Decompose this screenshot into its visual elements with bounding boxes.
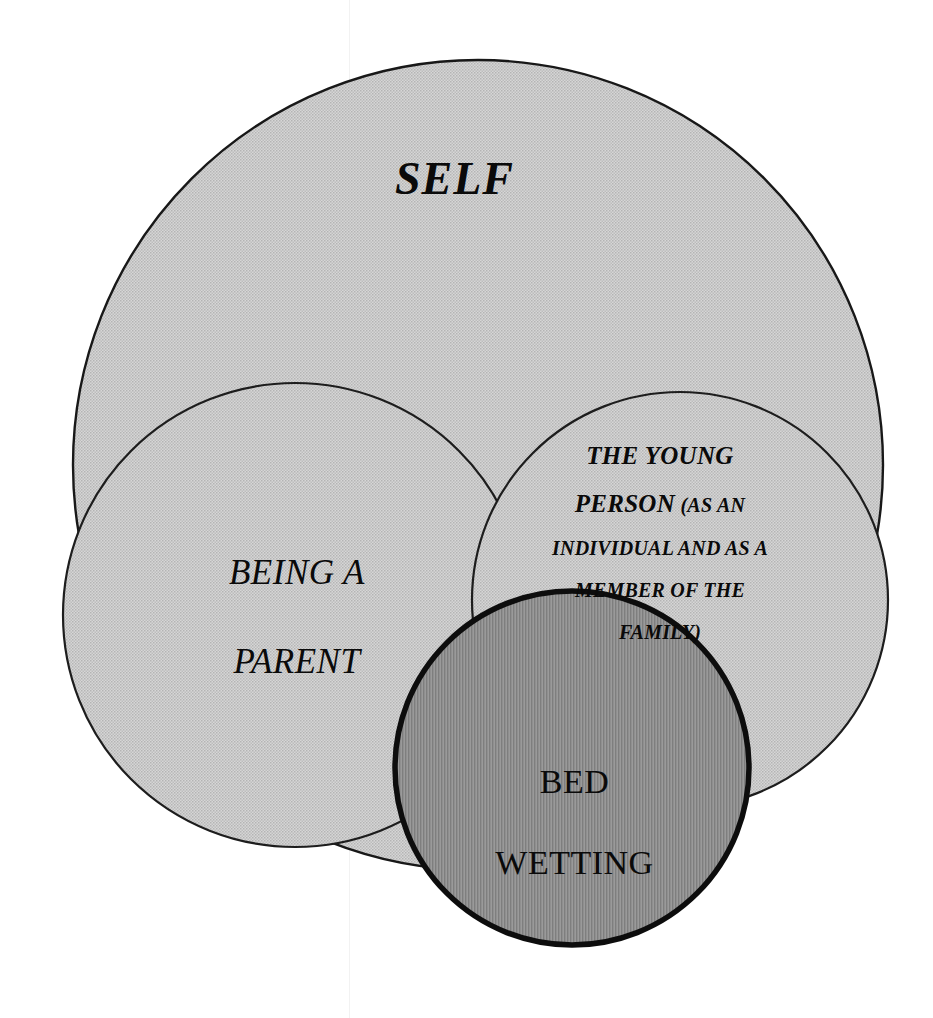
label-being-a-parent-line1: BEING A (229, 553, 365, 592)
label-the-young-person: THE YOUNG PERSON (AS AN INDIVIDUAL AND A… (500, 423, 820, 662)
label-self: SELF (0, 155, 933, 204)
label-bed-wetting-line1: BED (402, 762, 747, 802)
label-being-a-parent: BEING A PARENT (122, 506, 472, 685)
label-young-person-line5: FAMILY) (500, 620, 820, 645)
label-bed-wetting: BED WETTING (402, 722, 747, 924)
label-bed-wetting-line2: WETTING (402, 843, 747, 883)
label-young-person-line2-small: (AS AN (675, 494, 745, 516)
label-young-person-line2-big: PERSON (575, 490, 675, 517)
label-young-person-line4: MEMBER OF THE (500, 578, 820, 603)
label-young-person-line2: PERSON (AS AN (500, 488, 820, 519)
label-being-a-parent-line2: PARENT (234, 642, 361, 681)
venn-diagram-canvas: SELF BEING A PARENT THE YOUNG PERSON (AS… (0, 0, 933, 1018)
label-self-text: SELF (395, 155, 514, 204)
label-young-person-line1: THE YOUNG (500, 440, 820, 471)
label-young-person-line3: INDIVIDUAL AND AS A (500, 536, 820, 561)
